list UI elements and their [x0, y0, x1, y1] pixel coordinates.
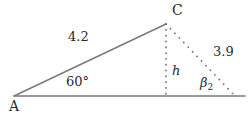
angle-label-beta-2: β2 [200, 76, 213, 89]
angle-beta-2-base: β [200, 75, 208, 90]
height-label-h: h [172, 64, 180, 77]
figure-canvas [0, 0, 248, 115]
angle-label-a: 60° [66, 75, 89, 88]
side-length-label-ac: 4.2 [68, 30, 89, 43]
angle-beta-2-subscript: 2 [208, 82, 214, 92]
triangle-figure: A C 4.2 60° h 3.9 β2 [0, 0, 248, 115]
side-ac-line [14, 24, 166, 96]
vertex-label-a: A [9, 99, 19, 113]
side-length-label-bc: 3.9 [213, 45, 234, 58]
vertex-label-c: C [172, 3, 183, 17]
